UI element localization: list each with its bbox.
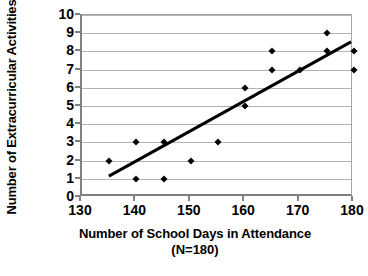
data-point: [350, 66, 357, 73]
x-axis-title-block: Number of School Days in Attendance (N=1…: [30, 226, 360, 259]
data-point: [187, 157, 194, 164]
x-axis-tick-labels: 130140150160170180: [80, 203, 352, 223]
data-point: [160, 139, 167, 146]
y-tick-label-0: 0: [44, 189, 74, 203]
y-tick-label-2: 2: [44, 153, 74, 167]
x-tick-label-180: 180: [328, 203, 368, 217]
y-tick-label-6: 6: [44, 80, 74, 94]
y-tick-label-1: 1: [44, 171, 74, 185]
data-points-layer: [82, 15, 351, 194]
y-tick-label-5: 5: [44, 98, 74, 112]
x-tick-170: [297, 196, 299, 201]
data-point: [160, 175, 167, 182]
y-tick-label-8: 8: [44, 43, 74, 57]
x-axis-title: Number of School Days in Attendance: [30, 226, 360, 242]
scatter-chart: Number of Extracurricular Activities 012…: [0, 0, 368, 276]
data-point: [242, 84, 249, 91]
data-point: [323, 48, 330, 55]
data-point: [133, 175, 140, 182]
x-tick-label-160: 160: [219, 203, 267, 217]
data-point: [106, 157, 113, 164]
data-point: [323, 30, 330, 37]
x-tick-label-140: 140: [110, 203, 158, 217]
x-axis-ticks: [80, 196, 352, 202]
x-tick-160: [242, 196, 244, 201]
plot-area: [80, 14, 352, 196]
y-tick-label-10: 10: [44, 7, 74, 21]
x-tick-140: [133, 196, 135, 201]
x-tick-label-170: 170: [274, 203, 322, 217]
y-tick-label-3: 3: [44, 134, 74, 148]
x-tick-label-130: 130: [56, 203, 104, 217]
x-tick-label-150: 150: [165, 203, 213, 217]
data-point: [133, 139, 140, 146]
x-axis-subtitle: (N=180): [30, 242, 360, 258]
x-tick-150: [188, 196, 190, 201]
y-tick-label-4: 4: [44, 116, 74, 130]
y-tick-label-7: 7: [44, 62, 74, 76]
x-tick-130: [79, 196, 81, 201]
y-axis-tick-labels: 012345678910: [44, 14, 74, 196]
y-tick-label-9: 9: [44, 25, 74, 39]
data-point: [350, 48, 357, 55]
data-point: [269, 66, 276, 73]
y-axis-title: Number of Extracurricular Activities: [0, 2, 22, 212]
data-point: [214, 139, 221, 146]
data-point: [242, 102, 249, 109]
x-tick-180: [351, 196, 353, 201]
data-point: [296, 66, 303, 73]
data-point: [269, 48, 276, 55]
